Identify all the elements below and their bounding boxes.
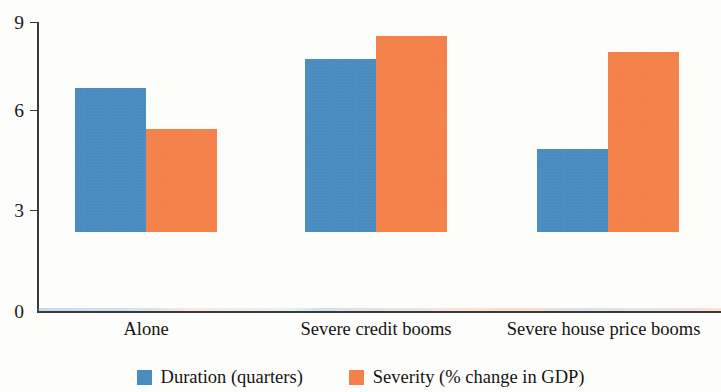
bar-chart: 9 6 3 0 Alone Severe credit booms Severe… — [0, 0, 721, 392]
bar-severe-credit-booms-severity — [376, 36, 447, 232]
legend-item-duration: Duration (quarters) — [137, 367, 303, 387]
legend-swatch-orange-icon — [349, 370, 364, 385]
legend-swatch-blue-icon — [137, 370, 152, 385]
x-label-alone: Alone — [96, 318, 196, 340]
x-axis-category-labels: Alone Severe credit booms Severe house p… — [0, 318, 721, 342]
bar-alone-severity — [146, 129, 217, 232]
legend-item-severity: Severity (% change in GDP) — [349, 367, 585, 387]
bar-severe-house-price-booms-severity — [608, 52, 679, 232]
bars-layer — [0, 0, 721, 313]
legend-label-severity: Severity (% change in GDP) — [373, 367, 585, 387]
x-label-severe-house-price-booms: Severe house price booms — [486, 318, 721, 340]
x-label-severe-credit-booms: Severe credit booms — [266, 318, 486, 340]
legend-label-duration: Duration (quarters) — [161, 367, 303, 387]
bar-alone-duration — [75, 88, 146, 233]
bar-severe-house-price-booms-duration — [537, 149, 608, 232]
chart-legend: Duration (quarters) Severity (% change i… — [0, 362, 721, 392]
bar-severe-credit-booms-duration — [305, 59, 376, 232]
